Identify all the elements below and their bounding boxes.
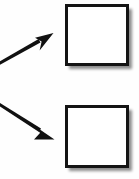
lower-arrow-shaft	[0, 101, 41, 132]
diagram-canvas: Two arrows pointing to two empty squares	[0, 0, 139, 179]
top-square-label	[68, 7, 69, 8]
upper-arrow-shaft	[0, 39, 41, 67]
bottom-square-label	[68, 108, 69, 109]
top-square[interactable]	[65, 4, 129, 66]
lower-arrow-head	[34, 127, 55, 140]
bottom-square[interactable]	[65, 105, 129, 168]
lower-arrow	[0, 101, 55, 140]
upper-arrow	[0, 33, 54, 67]
